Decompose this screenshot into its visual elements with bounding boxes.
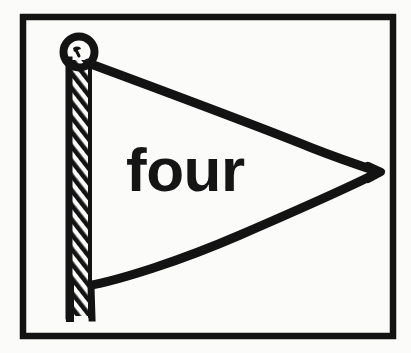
flag-illustration [0, 0, 411, 353]
flag-pole [66, 60, 92, 318]
illustration-canvas: four [0, 0, 411, 353]
